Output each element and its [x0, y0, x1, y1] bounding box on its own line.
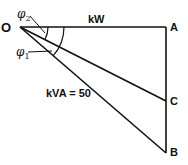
kw-label: kW [88, 14, 105, 25]
point-label-O: O [1, 21, 11, 34]
point-label-A: A [170, 22, 178, 33]
arc-phi1 [53, 27, 64, 56]
point-label-C: C [170, 96, 178, 107]
point-label-B: B [170, 147, 178, 158]
phi1-subscript: 1 [24, 52, 29, 61]
arc-phi2 [45, 27, 48, 40]
leader-phi2 [30, 16, 45, 33]
phi2-label: φ2 [17, 8, 31, 23]
phi1-label: φ1 [16, 46, 30, 61]
phi2-subscript: 2 [25, 14, 30, 23]
kva-label: kVA = 50 [46, 88, 91, 99]
